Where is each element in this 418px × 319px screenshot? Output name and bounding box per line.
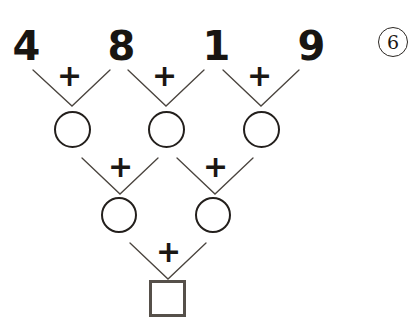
plus-operator-row3-1: + (156, 237, 180, 267)
plus-operator-row1-3: + (247, 61, 271, 91)
top-number-3: 1 (196, 26, 236, 66)
addition-pyramid-worksheet: 4 8 1 9 + + + + + + 6 (0, 0, 418, 319)
plus-operator-row2-1: + (108, 152, 132, 182)
plus-operator-row2-2: + (203, 152, 227, 182)
top-number-1: 4 (6, 26, 46, 66)
top-number-2: 8 (101, 26, 141, 66)
answer-circle-row3-2[interactable] (195, 197, 231, 233)
answer-circle-row2-1[interactable] (54, 111, 91, 148)
answer-circle-row3-1[interactable] (101, 197, 137, 233)
answer-square-final[interactable] (149, 280, 186, 317)
answer-circle-row2-2[interactable] (148, 111, 185, 148)
plus-operator-row1-1: + (57, 61, 81, 91)
problem-number-badge: 6 (378, 27, 408, 57)
plus-operator-row1-2: + (152, 61, 176, 91)
top-number-4: 9 (291, 26, 331, 66)
answer-circle-row2-3[interactable] (243, 111, 280, 148)
